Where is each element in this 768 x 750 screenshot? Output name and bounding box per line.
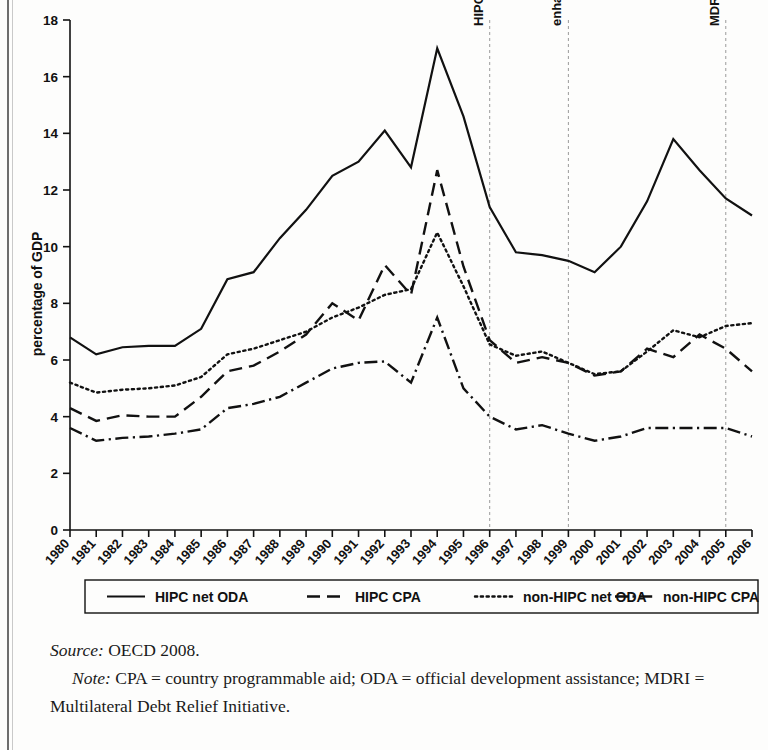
y-axis-tick-label: 12 xyxy=(43,183,58,198)
caption-source-text: OECD 2008. xyxy=(104,640,200,660)
x-axis-tick-label: 2002 xyxy=(619,536,649,568)
legend-label-hipc-net-oda: HIPC net ODA xyxy=(155,589,248,605)
x-axis-tick-label: 2006 xyxy=(724,536,754,568)
x-axis-tick-label: 1993 xyxy=(383,536,413,568)
x-axis-tick-label: 2004 xyxy=(671,535,702,567)
x-axis-tick-label: 1988 xyxy=(252,536,282,568)
x-axis-tick-label: 1984 xyxy=(147,535,178,567)
legend-label-non-hipc-cpa: non-HIPC CPA xyxy=(663,589,759,605)
y-axis-tick-label: 0 xyxy=(50,523,58,538)
y-axis-tick-label: 16 xyxy=(43,70,59,85)
annotation-label-mdri: MDRI xyxy=(707,0,722,26)
caption-note-lead: Note: xyxy=(72,668,111,688)
x-axis-tick-label: 1989 xyxy=(278,536,308,568)
x-axis-tick-label: 1991 xyxy=(330,536,360,568)
x-axis-tick-label: 1983 xyxy=(120,536,150,568)
caption-note-text: CPA = country programmable aid; ODA = of… xyxy=(50,668,704,716)
chart-figure: percentage of GDP 0246810121416181980198… xyxy=(0,0,768,620)
caption-source-lead: Source: xyxy=(50,640,104,660)
x-axis-tick-label: 2005 xyxy=(697,536,727,568)
x-axis-tick-label: 2001 xyxy=(593,536,623,568)
y-axis-tick-label: 6 xyxy=(50,353,58,368)
x-axis-tick-label: 1985 xyxy=(173,536,203,568)
y-axis-tick-label: 2 xyxy=(50,466,58,481)
figure-page: percentage of GDP 0246810121416181980198… xyxy=(0,0,768,750)
y-axis-tick-label: 8 xyxy=(50,296,58,311)
y-axis-label-wrapper: percentage of GDP xyxy=(8,210,38,390)
x-axis-tick-label: 1986 xyxy=(199,536,229,568)
y-axis-tick-label: 14 xyxy=(43,126,59,141)
annotation-label-hipc: HIPC xyxy=(471,0,486,26)
x-axis-tick-label: 1980 xyxy=(42,536,72,568)
x-axis-tick-label: 1994 xyxy=(409,535,440,567)
x-axis-tick-label: 1998 xyxy=(514,536,544,568)
annotation-label-enhanced-hipc: enhanced HIPC xyxy=(549,0,564,26)
caption-note-line: Note: CPA = country programmable aid; OD… xyxy=(50,664,750,720)
x-axis-tick-label: 1992 xyxy=(356,536,386,568)
series-line-non-hipc-net-oda xyxy=(70,233,752,393)
x-axis-tick-label: 1990 xyxy=(304,536,334,568)
legend-label-non-hipc-net-oda: non-HIPC net ODA xyxy=(523,589,647,605)
x-axis-tick-label: 1996 xyxy=(461,536,491,568)
x-axis-tick-label: 2003 xyxy=(645,536,675,568)
y-axis-tick-label: 4 xyxy=(50,410,58,425)
legend-label-hipc-cpa: HIPC CPA xyxy=(355,589,421,605)
x-axis-tick-label: 1981 xyxy=(68,536,98,568)
line-chart: 0246810121416181980198119821983198419851… xyxy=(0,0,768,620)
figure-caption: Source: OECD 2008. Note: CPA = country p… xyxy=(50,636,750,720)
x-axis-tick-label: 1999 xyxy=(540,536,570,568)
series-line-hipc-net-oda xyxy=(70,48,752,354)
series-line-non-hipc-cpa xyxy=(70,318,752,441)
y-axis-tick-label: 18 xyxy=(43,13,59,28)
y-axis-tick-label: 10 xyxy=(43,240,58,255)
y-axis-label: percentage of GDP xyxy=(29,204,45,384)
x-axis-tick-label: 2000 xyxy=(566,536,596,568)
x-axis-tick-label: 1982 xyxy=(94,536,124,568)
x-axis-tick-label: 1987 xyxy=(225,536,255,568)
x-axis-tick-label: 1995 xyxy=(435,536,465,568)
x-axis-tick-label: 1997 xyxy=(488,536,518,568)
caption-source-line: Source: OECD 2008. xyxy=(50,636,750,664)
